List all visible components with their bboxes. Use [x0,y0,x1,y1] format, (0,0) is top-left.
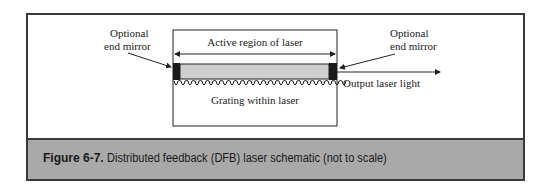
active-region-bar [180,64,329,79]
left-mirror-label-line2: end mirror [104,40,151,52]
left-mirror-label-line1: Optional [110,27,149,39]
grating-label: Grating within laser [211,94,299,106]
output-label: Output laser light [343,77,420,89]
right-end-mirror [329,63,337,80]
right-mirror-label-line1: Optional [390,27,429,39]
left-mirror-pointer-arrow [128,53,171,67]
left-end-mirror [173,63,180,80]
active-region-label: Active region of laser [207,36,303,48]
grating-wave [174,81,346,86]
right-mirror-label-line2: end mirror [390,40,437,52]
right-mirror-pointer-arrow [340,54,395,68]
dfb-laser-diagram: Active region of laser Grating within la… [0,0,549,191]
